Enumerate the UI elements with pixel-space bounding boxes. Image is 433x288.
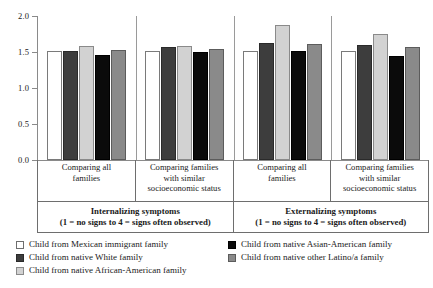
legend-item: Child from native African-American famil… — [16, 264, 186, 277]
y-tick-label: 1.5 — [0, 48, 29, 57]
bar — [177, 46, 192, 160]
bar — [373, 34, 388, 160]
legend-label: Child from native Asian-American family — [241, 239, 392, 250]
bar — [259, 43, 274, 160]
legend-swatch-icon — [228, 241, 236, 249]
legend-swatch-icon — [16, 254, 24, 262]
legend-swatch-icon — [228, 254, 236, 262]
legend-column-right: Child from native Asian-American familyC… — [228, 238, 392, 264]
category-label-text: Comparing familieswith similarsocioecono… — [341, 162, 418, 194]
legend-item: Child from native other Latino/a family — [228, 251, 392, 264]
bar-group — [234, 16, 332, 160]
category-label-cell: Comparing familieswith similarsocioecono… — [135, 160, 233, 202]
legend-item: Child from native White family — [16, 251, 186, 264]
bar — [79, 46, 94, 160]
y-tick-mark — [32, 52, 37, 53]
supergroup-label-cell: Internalizing symptoms(1 = no signs to 4… — [37, 202, 233, 233]
bar — [193, 52, 208, 160]
legend-column-left: Child from Mexican immigrant familyChild… — [16, 238, 186, 277]
y-tick-mark — [32, 124, 37, 125]
legend-label: Child from native African-American famil… — [29, 265, 186, 276]
bar — [145, 51, 160, 160]
bar — [63, 51, 78, 160]
y-tick-label: 0.5 — [0, 120, 29, 129]
bar — [161, 47, 176, 160]
legend-item: Child from native Asian-American family — [228, 238, 392, 251]
bar — [357, 45, 372, 160]
bar — [341, 51, 356, 160]
category-label-cell: Comparing allfamilies — [37, 160, 135, 202]
bar — [209, 49, 224, 160]
bar — [291, 51, 306, 160]
category-label-cell: Comparing familieswith similarsocioecono… — [330, 160, 429, 202]
y-tick-mark — [32, 88, 37, 89]
supergroup-subtitle: (1 = no signs to 4 = signs often observe… — [60, 217, 211, 228]
bar-groups — [38, 16, 429, 160]
legend-label: Child from native White family — [29, 252, 143, 263]
legend-label: Child from native other Latino/a family — [241, 252, 384, 263]
plot-area: 2.01.51.00.50.0 — [0, 0, 433, 168]
supergroup-label-band: Internalizing symptoms(1 = no signs to 4… — [37, 202, 429, 233]
bar — [47, 51, 62, 160]
legend-label: Child from Mexican immigrant family — [29, 239, 168, 250]
bar — [307, 44, 322, 160]
legend-swatch-icon — [16, 267, 24, 275]
category-label-cell: Comparing allfamilies — [233, 160, 331, 202]
bar-group — [38, 16, 136, 160]
supergroup-label-cell: Externalizing symptoms(1 = no signs to 4… — [233, 202, 430, 233]
bar — [243, 51, 258, 160]
category-label-band: Comparing allfamiliesComparing familiesw… — [37, 160, 429, 202]
bar — [389, 56, 404, 160]
y-tick-mark — [32, 16, 37, 17]
supergroup-title: Internalizing symptoms — [91, 206, 180, 217]
bar-chart: 2.01.51.00.50.0 Comparing allfamiliesCom… — [0, 0, 433, 288]
supergroup-subtitle: (1 = no signs to 4 = signs often observe… — [255, 217, 406, 228]
category-label-text: Comparing familieswith similarsocioecono… — [145, 162, 222, 194]
bar — [405, 47, 420, 160]
legend-swatch-icon — [16, 241, 24, 249]
category-label-text: Comparing allfamilies — [255, 162, 308, 183]
bar — [95, 55, 110, 160]
bar-group — [331, 16, 429, 160]
category-label-text: Comparing allfamilies — [60, 162, 113, 183]
bar — [111, 50, 126, 160]
y-tick-label: 2.0 — [0, 12, 29, 21]
chart-legend: Child from Mexican immigrant familyChild… — [0, 238, 433, 282]
y-tick-label: 1.0 — [0, 84, 29, 93]
legend-item: Child from Mexican immigrant family — [16, 238, 186, 251]
y-tick-label: 0.0 — [0, 156, 29, 165]
bar — [275, 25, 290, 160]
supergroup-title: Externalizing symptoms — [285, 206, 376, 217]
bar-group — [136, 16, 234, 160]
